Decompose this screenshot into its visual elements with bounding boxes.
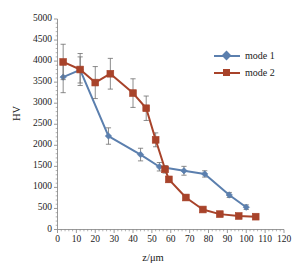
data-point-marker	[143, 105, 150, 112]
chart-legend: mode 1 mode 2	[214, 47, 300, 81]
data-point-marker	[162, 166, 169, 173]
legend-item-mode-1[interactable]: mode 1	[214, 47, 300, 64]
legend-label-mode-1: mode 1	[240, 50, 275, 61]
data-point-marker	[181, 168, 187, 174]
y-tick-label: 3500	[18, 77, 52, 87]
y-axis-title: HV	[11, 99, 22, 129]
data-point-marker	[252, 213, 259, 220]
y-tick-label: 2000	[18, 140, 52, 150]
y-tick-label: 4000	[18, 56, 52, 66]
diamond-marker-icon	[222, 51, 232, 61]
data-point-marker	[130, 90, 137, 97]
y-tick-label: 4500	[18, 35, 52, 45]
legend-swatch-mode-2	[214, 67, 240, 79]
data-point-marker	[77, 66, 84, 73]
y-tick-label: 3000	[18, 98, 52, 108]
x-tick-label: 120	[271, 235, 297, 245]
y-tick-label: 1000	[18, 182, 52, 192]
y-tick-label: 1500	[18, 161, 52, 171]
data-point-marker	[107, 70, 114, 77]
data-point-marker	[235, 213, 242, 220]
data-point-marker	[165, 176, 172, 183]
hardness-depth-chart: 0500100015002000250030003500400045005000…	[0, 0, 308, 271]
data-point-marker	[60, 59, 67, 66]
y-tick-label: 5000	[18, 14, 52, 24]
data-point-marker	[199, 206, 206, 213]
data-point-marker	[216, 211, 223, 218]
legend-item-mode-2[interactable]: mode 2	[214, 64, 300, 81]
data-point-marker	[92, 79, 99, 86]
y-tick-label: 0	[18, 225, 52, 235]
legend-label-mode-2: mode 2	[240, 67, 275, 78]
legend-swatch-mode-1	[214, 50, 240, 62]
data-point-marker	[182, 194, 189, 201]
y-tick-label: 500	[18, 203, 52, 213]
data-point-marker	[152, 136, 159, 143]
square-marker-icon	[223, 69, 230, 76]
x-axis-title: z/μm	[118, 252, 188, 263]
y-tick-label: 2500	[18, 119, 52, 129]
